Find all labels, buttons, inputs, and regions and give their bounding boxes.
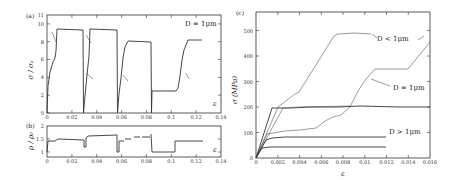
svg-text:0.002: 0.002 [271,159,285,165]
panel-b-frame [47,126,221,157]
svg-text:400: 400 [243,53,253,59]
panel-c-ylabel: σ (MPa) [231,76,239,104]
legend-d-lt-1um: D < 1μm [377,35,409,43]
svg-text:500: 500 [243,28,253,34]
svg-text:0: 0 [41,110,44,116]
svg-text:0.008: 0.008 [336,159,350,165]
svg-text:0.006: 0.006 [314,159,328,165]
svg-text:0.04: 0.04 [91,114,102,120]
svg-text:0.12: 0.12 [191,114,202,120]
panel-c-yticks: 0 100 200 300 400 500 [243,28,430,162]
svg-text:0: 0 [254,159,257,165]
panel-a-xticks: 0 0.02 0.04 0.06 0.08 0.1 0.12 0.14 [45,15,226,120]
svg-text:0: 0 [45,158,48,164]
legend-d-gt-1um: D > 1μm [389,128,421,136]
panel-b-label: (b) [26,122,35,129]
panel-c-label: (c) [236,9,244,16]
panel-a-label: (a) [26,12,34,19]
svg-text:0.004: 0.004 [292,159,306,165]
svg-text:11: 11 [38,12,44,18]
panel-b-density-curve [47,134,203,152]
panel-c: (c) 0 100 200 300 400 500 0 0.002 0.004 [231,9,437,178]
svg-text:0.06: 0.06 [116,114,127,120]
svg-text:0.012: 0.012 [379,159,393,165]
svg-text:0.04: 0.04 [91,158,102,164]
panel-a-annotation: D = 1μm [185,20,217,28]
svg-text:0.1: 0.1 [167,158,175,164]
svg-text:1.5: 1.5 [36,136,44,142]
svg-text:0.02: 0.02 [66,114,77,120]
figure: (a) 0 2 4 6 8 10 11 0 0.02 0.04 0.06 [0,0,464,180]
panel-b-ylabel: ρ / ρ₀ [27,132,35,151]
panel-a-ylabel: σ / σₑ [27,60,35,79]
svg-text:0.016: 0.016 [423,159,437,165]
svg-text:0.12: 0.12 [191,158,202,164]
curve-d-lt-1um [256,33,371,158]
panel-a: (a) 0 2 4 6 8 10 11 0 0.02 0.04 0.06 [26,12,227,120]
svg-text:300: 300 [243,79,253,85]
curve-d-gt-1um-80 [256,137,386,158]
svg-text:100: 100 [243,130,253,136]
panel-a-xlabel: ε [213,100,217,108]
svg-text:0.14: 0.14 [215,158,226,164]
svg-text:0.1: 0.1 [167,114,175,120]
panel-b: (b) 2 1.5 1 0 0.02 0.04 0.06 0.08 0.1 0.… [26,122,227,164]
svg-text:1: 1 [41,149,44,155]
panel-b-xticks: 0 0.02 0.04 0.06 0.08 0.1 0.12 0.14 [45,154,226,164]
svg-text:0.01: 0.01 [359,159,370,165]
svg-text:0.02: 0.02 [66,158,77,164]
svg-text:8: 8 [41,39,44,45]
svg-text:6: 6 [41,56,44,62]
svg-text:4: 4 [41,74,44,80]
panel-c-xlabel: ε [341,170,345,178]
svg-text:0.14: 0.14 [215,114,226,120]
svg-text:0.06: 0.06 [116,158,127,164]
svg-text:0: 0 [45,114,48,120]
svg-text:0.08: 0.08 [141,158,152,164]
panel-b-xlabel: ε [213,146,217,154]
svg-text:2: 2 [41,123,44,129]
svg-text:2: 2 [41,92,44,98]
svg-text:10: 10 [38,21,44,27]
panel-a-stress-curve [47,29,202,113]
svg-text:0: 0 [250,155,253,161]
svg-text:0.014: 0.014 [401,159,415,165]
curve-d-eq-1um-rising [256,42,430,158]
svg-text:200: 200 [243,104,253,110]
legend-d-eq-1um: D = 1μm [393,84,425,92]
svg-text:0.08: 0.08 [141,114,152,120]
